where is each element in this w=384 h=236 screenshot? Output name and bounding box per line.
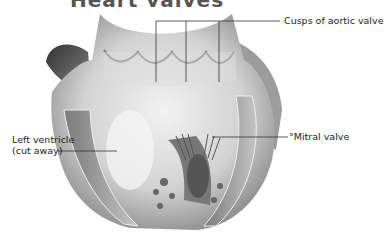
left-ventricle-label-line2: (cut away) [12,145,74,156]
left-ventricle-label-line1: Left ventricle [12,134,74,145]
heart-illustration [0,0,384,236]
aortic-valve-label: Cusps of aortic valve [284,15,383,26]
left-ventricle-label: Left ventricle (cut away) [12,134,74,156]
mitral-valve-label: °Mitral valve [289,131,349,142]
